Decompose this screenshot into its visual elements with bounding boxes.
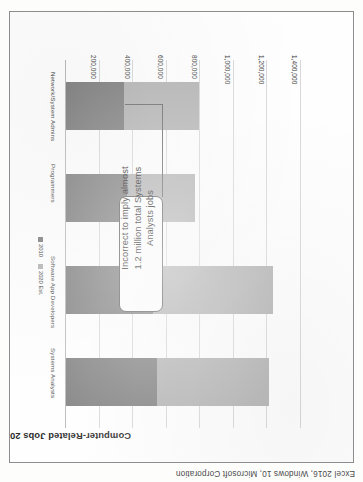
- callout-leader-line: [162, 105, 163, 197]
- callout-leader-line: [125, 104, 163, 105]
- plot-area: 200,000400,000600,000800,0001,000,0001,2…: [66, 60, 301, 428]
- bar-group: [66, 266, 301, 314]
- figure-source-caption: Excel 2016, Windows 10, Microsoft Corpor…: [8, 469, 355, 478]
- callout-box: Incorrect to imply almost 1.2 million to…: [119, 196, 163, 312]
- value-axis-tick-label: 1,000,000: [224, 55, 231, 84]
- legend-swatch: [38, 237, 43, 242]
- chart-frame: Computer-Related Jobs 2010 and 2020 200,…: [9, 11, 354, 463]
- legend-label: 2020 Est.: [38, 271, 44, 296]
- bar-group: [66, 174, 301, 222]
- bar-segment: [153, 266, 273, 314]
- legend-item: 2020 Est.: [38, 264, 44, 296]
- category-axis-label: Systems Analysts: [50, 348, 57, 398]
- scanned-figure-page: Excel 2016, Windows 10, Microsoft Corpor…: [0, 0, 363, 482]
- value-axis-tick-label: 1,200,000: [258, 55, 265, 84]
- legend-item: 2010: [38, 237, 44, 257]
- bar-segment: [66, 174, 127, 222]
- value-axis-tick-label: 200,000: [90, 55, 97, 79]
- bar-group: [66, 358, 301, 406]
- bar-segment: [66, 82, 124, 130]
- value-axis-tick-label: 800,000: [191, 55, 198, 79]
- legend-swatch: [38, 264, 43, 269]
- category-axis-label: Network/System Admins: [50, 72, 57, 141]
- category-axis-label: Software App Developers: [50, 256, 57, 328]
- value-axis-tick-label: 1,400,000: [291, 55, 298, 84]
- bar-group: [66, 82, 301, 130]
- bar-segment: [157, 358, 269, 406]
- legend-label: 2010: [38, 244, 44, 257]
- chart-title: Computer-Related Jobs 2010 and 2020: [9, 431, 131, 442]
- category-axis-label: Programmers: [50, 164, 57, 203]
- value-axis-tick-label: 400,000: [124, 55, 131, 79]
- chart-legend: 20102020 Est.: [38, 237, 44, 302]
- value-axis-tick-label: 600,000: [157, 55, 164, 79]
- callout-text: Incorrect to imply almost 1.2 million to…: [119, 162, 160, 274]
- bar-segment: [66, 358, 157, 406]
